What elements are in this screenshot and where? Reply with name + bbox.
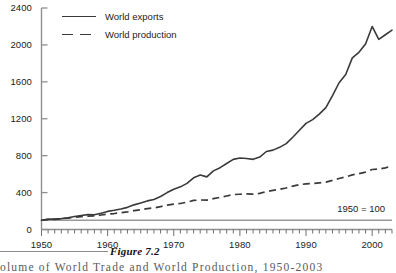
figure-caption-label: Figure 7.2 [110, 245, 160, 257]
legend-swatch-dashed-icon [62, 30, 96, 40]
chart-legend: World exports World production [62, 9, 177, 45]
legend-swatch-solid-icon [62, 12, 96, 22]
x-tick-label-1990: 1990 [286, 239, 326, 250]
base-index-annotation: 1950 = 100 [337, 203, 385, 214]
x-tick-marks [42, 230, 393, 237]
y-tick-label-400: 400 [2, 187, 32, 198]
figure-caption-text: olume of World Trade and World Productio… [0, 261, 396, 273]
y-tick-marks [42, 8, 48, 230]
y-tick-label-2400: 2400 [2, 2, 32, 13]
y-tick-label-800: 800 [2, 150, 32, 161]
legend-label-world-exports: World exports [105, 11, 163, 22]
caption-divider [0, 251, 108, 252]
legend-item-world-exports: World exports [62, 9, 177, 24]
y-tick-label-1200: 1200 [2, 113, 32, 124]
y-tick-label-0: 0 [2, 224, 32, 235]
y-tick-label-1600: 1600 [2, 76, 32, 87]
x-tick-label-2000: 2000 [352, 239, 392, 250]
x-tick-label-1980: 1980 [220, 239, 260, 250]
legend-label-world-production: World production [105, 29, 177, 40]
y-tick-label-2000: 2000 [2, 39, 32, 50]
series-line-world-exports [42, 26, 393, 220]
legend-item-world-production: World production [62, 27, 177, 42]
figure-root: 04008001200160020002400 1950196019701980… [0, 0, 396, 273]
chart-figure: 04008001200160020002400 1950196019701980… [0, 0, 396, 247]
x-tick-label-1950: 1950 [22, 239, 62, 250]
